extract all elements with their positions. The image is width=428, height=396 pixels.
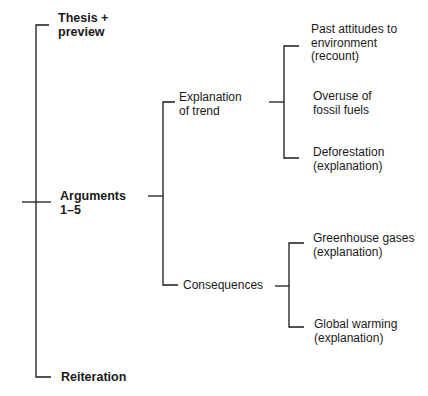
node-overuse-fossil-fuels: Overuse of fossil fuels xyxy=(313,90,372,117)
node-thesis-preview: Thesis + preview xyxy=(58,12,108,39)
label: Arguments xyxy=(60,190,126,204)
node-past-attitudes: Past attitudes to environment (recount) xyxy=(311,23,397,64)
label: Past attitudes to xyxy=(311,23,397,37)
root-bracket xyxy=(36,25,51,377)
label: (explanation) xyxy=(314,332,397,346)
node-deforestation: Deforestation (explanation) xyxy=(313,146,384,173)
node-arguments: Arguments 1–5 xyxy=(60,190,126,217)
label: (explanation) xyxy=(313,160,384,174)
label: Global warming xyxy=(314,318,397,332)
arguments-bracket xyxy=(163,102,178,285)
label: preview xyxy=(58,26,108,40)
label: environment xyxy=(311,37,397,51)
label: Consequences xyxy=(183,279,263,293)
label: Deforestation xyxy=(313,146,384,160)
node-reiteration: Reiteration xyxy=(61,371,126,385)
label: fossil fuels xyxy=(313,104,372,118)
explanation-bracket xyxy=(284,46,299,158)
node-explanation-of-trend: Explanation of trend xyxy=(179,91,242,118)
label: of trend xyxy=(179,105,242,119)
label: Overuse of xyxy=(313,90,372,104)
consequences-bracket xyxy=(289,243,304,327)
label: 1–5 xyxy=(60,204,126,218)
label: Thesis + xyxy=(58,12,108,26)
node-global-warming: Global warming (explanation) xyxy=(314,318,397,345)
label: Reiteration xyxy=(61,371,126,385)
label: Explanation xyxy=(179,91,242,105)
node-greenhouse-gases: Greenhouse gases (explanation) xyxy=(313,232,414,259)
node-consequences: Consequences xyxy=(183,279,263,293)
label: (recount) xyxy=(311,50,397,64)
label: Greenhouse gases xyxy=(313,232,414,246)
label: (explanation) xyxy=(313,246,414,260)
